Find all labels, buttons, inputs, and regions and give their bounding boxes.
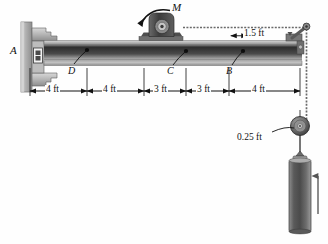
hanging-weight (289, 151, 311, 234)
label-moment-m: M (172, 2, 181, 13)
dim-segment-5: 4 ft (251, 85, 266, 95)
dim-segment-1: 4 ft (45, 85, 60, 95)
dim-segment-4: 3 ft (196, 85, 211, 95)
label-point-c: C (167, 66, 174, 76)
pulley (291, 110, 310, 136)
dim-pulley-radius-label: 0.25 ft (236, 133, 263, 143)
beam (44, 41, 302, 66)
pin-connection-a (34, 48, 43, 63)
figure-canvas: A D C B M 4 ft 4 ft 3 ft 3 ft 4 ft 1.5 f… (0, 0, 328, 244)
label-point-b: B (226, 66, 232, 76)
dim-segment-2: 4 ft (102, 85, 117, 95)
diagram-svg (0, 0, 328, 244)
label-point-d: D (68, 66, 75, 76)
dim-cable-offset-label: 1.5 ft (243, 29, 265, 39)
dim-segment-3: 3 ft (153, 85, 168, 95)
label-support-a: A (10, 45, 17, 56)
